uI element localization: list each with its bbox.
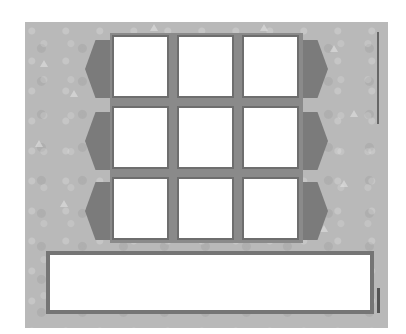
decorative-triangle-icon [70,90,78,97]
decorative-triangle-icon [350,110,358,117]
grid-cell-r2-c3[interactable] [242,106,299,169]
decorative-triangle-icon [330,45,338,52]
decorative-triangle-icon [260,24,268,31]
grid-cell-r1-c3[interactable] [242,35,299,98]
decorative-triangle-icon [150,24,158,31]
grid-cell-r2-c1[interactable] [112,106,169,169]
grid-cell-r1-c1[interactable] [112,35,169,98]
side-copyright-text [377,32,379,124]
grid-cell-r1-c2[interactable] [177,35,234,98]
decorative-triangle-icon [35,140,43,147]
answer-box[interactable] [46,251,374,314]
grid-cell-r3-c3[interactable] [242,177,299,240]
grid-cell-r2-c2[interactable] [177,106,234,169]
decorative-triangle-icon [60,200,68,207]
grid-cell-r3-c2[interactable] [177,177,234,240]
decorative-triangle-icon [40,60,48,67]
grid-cell-r3-c1[interactable] [112,177,169,240]
side-page-label [377,288,380,313]
decorative-triangle-icon [340,180,348,187]
